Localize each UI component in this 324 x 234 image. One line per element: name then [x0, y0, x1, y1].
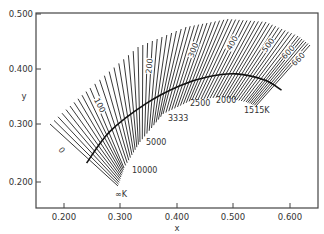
y-tick-label: 0.400: [9, 64, 33, 74]
temperature-label: 1515K: [244, 106, 270, 115]
temperature-label: 10000: [132, 166, 157, 175]
y-tick-label: 0.500: [9, 9, 33, 19]
temperature-label: 3333: [168, 114, 188, 123]
y-tick-label: 0.300: [9, 119, 33, 129]
x-tick-label: 0.200: [52, 212, 76, 222]
x-tick-label: 0.400: [165, 212, 189, 222]
x-axis-title: x: [174, 223, 179, 233]
isotemperature-line: [142, 45, 143, 139]
temperature-label: 2500: [190, 99, 210, 108]
y-axis-title: y: [21, 91, 26, 101]
x-tick-label: 0.600: [278, 212, 302, 222]
mired-label: 200: [144, 58, 155, 74]
temperature-label: 5000: [146, 138, 166, 147]
temperature-label: 2000: [216, 96, 236, 105]
temperature-label: ∞K: [115, 190, 128, 199]
chart: 0.500 0.400 0.300 0.200 y 0.200 0.300 0.…: [0, 0, 324, 234]
x-tick-label: 0.500: [221, 212, 245, 222]
y-tick-label: 0.200: [9, 177, 33, 187]
chart-background: [0, 0, 324, 234]
x-tick-label: 0.300: [108, 212, 132, 222]
